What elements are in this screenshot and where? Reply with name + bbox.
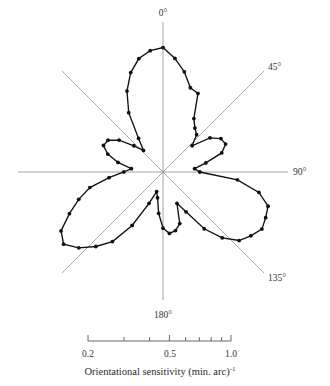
data-point-markers <box>59 46 270 250</box>
caption-exponent: -1 <box>230 365 236 373</box>
data-point <box>106 152 110 156</box>
polar-plot-figure: 0° 45° 90° 135° 180° 0.2 0.5 1.0 Orienta… <box>0 0 330 386</box>
data-point <box>204 161 208 165</box>
data-point <box>174 229 178 233</box>
data-point <box>193 126 197 130</box>
data-point <box>137 57 141 61</box>
data-point <box>148 49 152 53</box>
data-point <box>68 212 72 216</box>
data-point <box>130 224 134 228</box>
data-point <box>182 70 186 74</box>
data-point <box>94 245 98 249</box>
data-point <box>219 137 223 141</box>
angle-label-90: 90° <box>293 167 307 177</box>
data-point <box>220 151 224 155</box>
data-point <box>202 227 206 231</box>
data-point <box>77 197 81 201</box>
data-point <box>260 227 264 231</box>
data-point <box>125 89 129 93</box>
data-point <box>173 57 177 61</box>
data-point <box>175 201 179 205</box>
data-point <box>116 161 120 165</box>
data-point <box>88 186 92 190</box>
data-point <box>107 176 111 180</box>
scale-bar-group: 0.2 0.5 1.0 <box>82 335 237 359</box>
data-polyline <box>61 48 268 248</box>
data-point <box>264 216 268 220</box>
scale-tick-label-2: 1.0 <box>225 349 237 359</box>
data-point <box>106 138 110 142</box>
data-point <box>168 231 172 235</box>
data-point <box>249 234 253 238</box>
data-point <box>196 92 200 96</box>
data-point <box>137 136 141 140</box>
scale-tick-label-0: 0.2 <box>82 349 94 359</box>
angle-label-45: 45° <box>268 62 282 72</box>
data-point <box>188 86 192 90</box>
data-point <box>266 204 270 208</box>
data-point <box>237 239 241 243</box>
data-point <box>111 240 115 244</box>
data-point <box>62 242 66 246</box>
polar-axes-group <box>18 22 288 300</box>
data-point <box>178 222 182 226</box>
caption-main: Orientational sensitivity (min. arc) <box>84 366 230 378</box>
data-point <box>77 246 81 250</box>
axis-caption: Orientational sensitivity (min. arc)-1 <box>84 365 236 378</box>
data-point <box>142 148 146 152</box>
data-point <box>224 142 228 146</box>
data-point <box>161 226 165 230</box>
data-point <box>208 136 212 140</box>
scale-ticks <box>88 335 231 341</box>
data-point <box>161 46 165 50</box>
scale-tick-label-1: 0.5 <box>164 349 176 359</box>
angle-label-0: 0° <box>159 8 168 18</box>
data-point <box>147 201 151 205</box>
data-point <box>198 170 202 174</box>
data-point <box>132 144 136 148</box>
data-point <box>102 144 106 148</box>
data-point <box>195 133 199 137</box>
data-series-group <box>59 46 270 250</box>
data-point <box>190 144 194 148</box>
angle-label-135: 135° <box>268 273 286 283</box>
data-point <box>117 138 121 142</box>
data-point <box>257 190 261 194</box>
data-point <box>130 167 134 171</box>
angle-label-180: 180° <box>154 310 172 320</box>
data-point <box>236 178 240 182</box>
data-point <box>127 111 131 115</box>
data-point <box>193 167 197 171</box>
data-point <box>192 117 196 121</box>
data-point <box>59 229 63 233</box>
data-point <box>157 211 161 215</box>
data-point <box>184 210 188 214</box>
data-point <box>129 71 133 75</box>
data-point <box>155 190 159 194</box>
data-point <box>122 170 126 174</box>
data-point <box>220 236 224 240</box>
data-point <box>156 196 160 200</box>
